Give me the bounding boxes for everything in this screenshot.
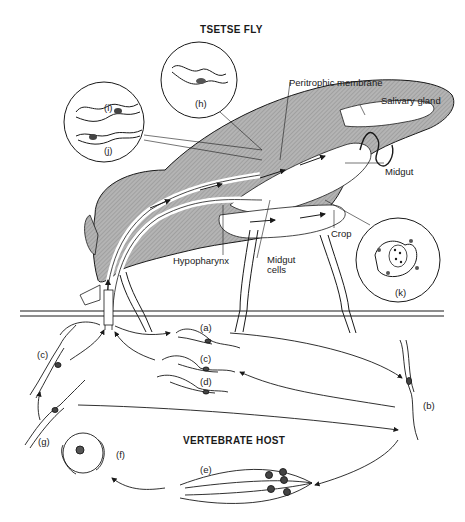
label-peritrophic-membrane: Peritrophic membrane <box>289 78 382 88</box>
label-midgut-cells: Midgut cells <box>267 255 307 275</box>
stage-b: (b) <box>423 400 435 411</box>
stage-h: (h) <box>195 98 207 109</box>
stage-c: (c) <box>200 353 211 364</box>
stage-i: (i) <box>104 102 112 113</box>
stage-d: (d) <box>200 376 212 387</box>
stage-c-left: (c) <box>37 349 48 360</box>
stage-g: (g) <box>38 436 50 447</box>
trypanosome-forms <box>25 322 418 503</box>
title-vertebrate-host: VERTEBRATE HOST <box>183 435 285 446</box>
label-salivary-gland: Salivary gland <box>381 96 441 106</box>
stage-j: (j) <box>104 145 112 156</box>
cycle-arrows <box>38 326 402 489</box>
stage-a: (a) <box>200 322 212 333</box>
title-tsetse-fly: TSETSE FLY <box>200 24 263 35</box>
stage-k: (k) <box>395 287 406 298</box>
label-crop: Crop <box>331 229 352 239</box>
label-hypopharynx: Hypopharynx <box>173 256 229 266</box>
label-midgut: Midgut <box>385 167 414 177</box>
stage-e: (e) <box>200 464 212 475</box>
proboscis <box>104 290 113 325</box>
stage-f: (f) <box>116 449 125 460</box>
